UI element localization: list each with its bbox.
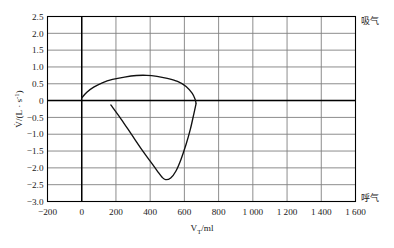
x-tick-label: 400: [143, 207, 157, 217]
x-tick-label: 1 000: [242, 207, 263, 217]
y-tick-label: −2.5: [27, 180, 44, 190]
y-tick-label: −0.5: [27, 113, 44, 123]
x-tick-label: 1 400: [311, 207, 332, 217]
y-tick-label: 1.0: [32, 62, 44, 72]
x-tick-label: −200: [38, 207, 57, 217]
y-axis-title-unit: /(L · s: [14, 98, 24, 121]
y-tick-label: 1.5: [32, 45, 44, 55]
y-tick-label: −1.0: [27, 129, 44, 139]
x-tick-label: 1 200: [277, 207, 298, 217]
y-tick-label: −1.5: [27, 146, 44, 156]
x-tick-label: 1 600: [345, 207, 366, 217]
figure-background: [0, 0, 394, 248]
exhale-label: 呼气: [361, 192, 379, 203]
y-tick-label: 2.0: [32, 29, 44, 39]
x-tick-label: 600: [177, 207, 191, 217]
y-tick-label: 0.5: [32, 79, 44, 89]
x-tick-label: 0: [79, 207, 84, 217]
x-tick-label: 800: [212, 207, 226, 217]
y-axis-title-close: ): [14, 90, 24, 93]
x-axis-title: VT/ml: [191, 223, 214, 235]
chart-svg: 2.52.01.51.00.50−0.5−1.0−1.5−2.0−2.5−3.0…: [0, 0, 394, 248]
svg-text:VT/ml: VT/ml: [191, 223, 214, 235]
y-tick-label: −3.0: [27, 197, 44, 207]
inhale-label: 吸气: [361, 15, 379, 26]
y-tick-label: 0: [39, 96, 44, 106]
y-tick-label: 2.5: [32, 12, 44, 22]
y-tick-label: −2.0: [27, 163, 44, 173]
flow-volume-loop-figure: 2.52.01.51.00.50−0.5−1.0−1.5−2.0−2.5−3.0…: [0, 0, 394, 248]
x-tick-label: 200: [109, 207, 123, 217]
x-axis-title-unit: /ml: [201, 223, 214, 233]
